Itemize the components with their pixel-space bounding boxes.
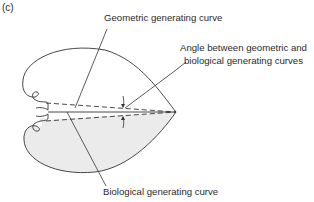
geometric-leader-line [75,29,107,108]
biological-curve-label: Biological generating curve [103,186,218,197]
angle-label-line2: biological generating curves [180,54,307,67]
angle-label-line1: Angle between geometric and [180,41,307,54]
upper-hinge-hook [33,92,48,110]
angle-label: Angle between geometric and biological g… [180,41,307,67]
panel-label: (c) [2,2,14,13]
geometric-dashed-line [46,103,176,112]
shell-diagram [0,0,314,202]
angle-arrowhead-upper [121,104,125,108]
geometric-curve-label: Geometric generating curve [104,12,222,23]
